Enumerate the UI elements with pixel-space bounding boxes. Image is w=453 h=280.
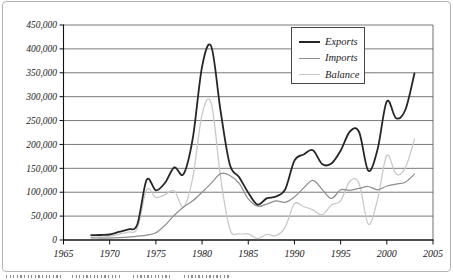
y-axis-label: 100,000 [26, 187, 57, 197]
legend-item-balance: Balance [299, 67, 364, 83]
caption-word-fragment [72, 275, 120, 278]
x-axis-label: 2000 [377, 248, 397, 259]
y-axis-label: 150,000 [26, 164, 57, 174]
x-axis-label: 1975 [146, 248, 166, 259]
y-axis-label: 50,000 [31, 211, 57, 221]
x-axis-label: 1965 [54, 248, 74, 259]
y-axis-label: 450,000 [26, 20, 57, 30]
x-axis-label: 1970 [100, 248, 120, 259]
x-axis-label: 1985 [238, 248, 258, 259]
imports-series-line [91, 173, 414, 238]
legend: Exports Imports Balance [291, 27, 365, 84]
legend-label-exports: Exports [325, 37, 358, 48]
exports-line-sample-icon [299, 41, 320, 43]
x-axis-label: 2005 [423, 248, 443, 259]
y-axis-label: 0 [52, 235, 57, 245]
y-axis-label: 250,000 [26, 116, 57, 126]
y-axis-label: 300,000 [25, 92, 57, 102]
y-axis-label: 200,000 [26, 140, 57, 150]
x-axis-label: 1980 [192, 248, 212, 259]
caption-word-fragment [184, 275, 229, 278]
trade-line-chart: 050,000100,000150,000200,000250,000300,0… [0, 0, 453, 272]
x-axis-label: 1995 [331, 248, 351, 259]
legend-item-exports: Exports [299, 34, 364, 50]
caption-text-cutoff [6, 275, 229, 279]
x-axis-label: 1990 [284, 248, 304, 259]
balance-line-sample-icon [299, 74, 320, 75]
y-axis-label: 350,000 [25, 68, 57, 78]
legend-item-imports: Imports [299, 50, 364, 66]
imports-line-sample-icon [299, 58, 320, 59]
legend-label-imports: Imports [325, 53, 358, 64]
caption-word-fragment [6, 275, 61, 278]
legend-label-balance: Balance [325, 70, 359, 81]
caption-word-fragment [133, 275, 171, 278]
y-axis-label: 400,000 [26, 44, 57, 54]
chart-page: 050,000100,000150,000200,000250,000300,0… [0, 0, 453, 280]
